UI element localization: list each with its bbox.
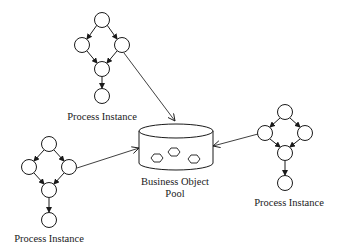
flow-arrow bbox=[34, 173, 44, 184]
cylinder-top bbox=[139, 124, 213, 138]
connection-left-to-pool bbox=[77, 148, 139, 168]
activity-node bbox=[298, 126, 313, 141]
process-instance-top: Process Instance bbox=[67, 13, 137, 123]
process-label: Process Instance bbox=[254, 197, 324, 208]
flow-arrow bbox=[270, 118, 280, 127]
flow-arrow bbox=[107, 51, 117, 63]
flow-arrow bbox=[107, 25, 117, 39]
activity-node bbox=[278, 146, 293, 161]
activity-node bbox=[95, 62, 110, 77]
flow-arrow bbox=[54, 173, 64, 184]
activity-node bbox=[22, 160, 37, 175]
flow-arrow bbox=[34, 150, 44, 161]
activity-node bbox=[75, 38, 90, 53]
process-instance-right: Process Instance bbox=[254, 105, 324, 209]
business-object-hexagon-icon bbox=[151, 154, 163, 162]
process-instance-left: Process Instance bbox=[14, 137, 84, 245]
business-object-hexagon-icon bbox=[168, 148, 180, 156]
activity-node bbox=[42, 213, 57, 228]
activity-node bbox=[62, 160, 77, 175]
flow-arrow bbox=[290, 118, 300, 127]
flow-arrow bbox=[87, 25, 97, 39]
pool-label-line2: Pool bbox=[165, 188, 184, 199]
flow-arrow bbox=[290, 139, 300, 147]
activity-node bbox=[278, 176, 293, 191]
diagram-canvas: Process Instance Process Instance Proces… bbox=[0, 0, 342, 251]
pool-label-line1: Business Object bbox=[141, 176, 209, 187]
process-label: Process Instance bbox=[14, 233, 84, 244]
activity-node bbox=[258, 126, 273, 141]
business-object-hexagon-icon bbox=[188, 155, 200, 163]
activity-node bbox=[95, 13, 110, 28]
activity-node bbox=[42, 183, 57, 198]
flow-arrow bbox=[87, 51, 97, 63]
flow-arrow bbox=[270, 139, 280, 147]
flow-arrow bbox=[54, 150, 64, 161]
activity-node bbox=[95, 89, 110, 104]
process-label: Process Instance bbox=[67, 111, 137, 122]
activity-node bbox=[115, 38, 130, 53]
business-object-pool: Business Object Pool bbox=[139, 124, 213, 199]
activity-node bbox=[278, 105, 293, 120]
activity-node bbox=[42, 137, 57, 152]
connection-right-to-pool bbox=[213, 134, 258, 146]
